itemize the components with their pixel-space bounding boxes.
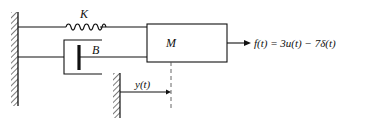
spring-k xyxy=(18,24,147,30)
mass-label: M xyxy=(165,36,177,50)
displacement-label: y(t) xyxy=(134,78,151,91)
damper-label: B xyxy=(92,43,100,57)
left-wall xyxy=(11,12,18,106)
displacement-arrow xyxy=(120,90,171,95)
spring-label: K xyxy=(79,7,89,21)
damper-b xyxy=(18,40,147,74)
force-arrow xyxy=(227,40,251,46)
mechanical-system-diagram: K B M f(t) = 3u(t) − 7δ(t) y(t) xyxy=(0,0,367,128)
reference-wall xyxy=(113,73,120,118)
force-label: f(t) = 3u(t) − 7δ(t) xyxy=(254,37,336,50)
mass-block xyxy=(147,24,227,62)
